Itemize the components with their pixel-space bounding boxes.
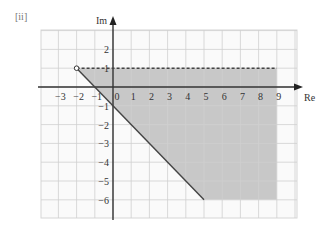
x-tick-label: 5 [204, 91, 209, 102]
x-tick-label: 8 [258, 91, 263, 102]
y-tick-label: −4 [98, 157, 109, 168]
x-tick-label: 0 [115, 91, 120, 102]
x-tick-label: 3 [167, 91, 172, 102]
y-tick-label: −1 [98, 101, 109, 112]
x-tick-label: 9 [276, 91, 281, 102]
x-tick-label: −2 [73, 91, 84, 102]
x-tick-label: 7 [240, 91, 245, 102]
argand-diagram: ReIm−3−2−1012345678921−1−2−3−4−5−6 [0, 0, 324, 227]
im-axis-label: Im [96, 15, 107, 26]
y-tick-label: −5 [98, 176, 109, 187]
x-tick-label: 6 [222, 91, 227, 102]
y-tick-label: 2 [104, 44, 109, 55]
arrow-up-icon [110, 16, 117, 25]
open-point-marker [74, 66, 79, 71]
x-tick-label: −3 [55, 91, 66, 102]
x-tick-label: 1 [131, 91, 136, 102]
y-tick-label: −6 [98, 195, 109, 206]
x-tick-label: 4 [185, 91, 190, 102]
y-tick-label: −2 [98, 120, 109, 131]
re-axis-label: Re [304, 92, 316, 103]
x-tick-label: 2 [149, 91, 154, 102]
arrow-right-icon [294, 84, 303, 91]
y-tick-label: −3 [98, 138, 109, 149]
